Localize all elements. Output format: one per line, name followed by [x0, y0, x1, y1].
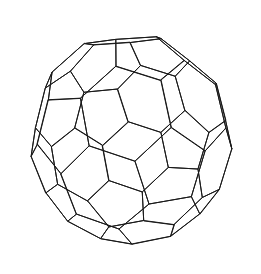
truncated-icosahedron-wireframe: Truncated icosahedron — [0, 0, 261, 274]
polyhedron-figure: Truncated icosahedron Truncated icosahed… — [0, 0, 261, 274]
